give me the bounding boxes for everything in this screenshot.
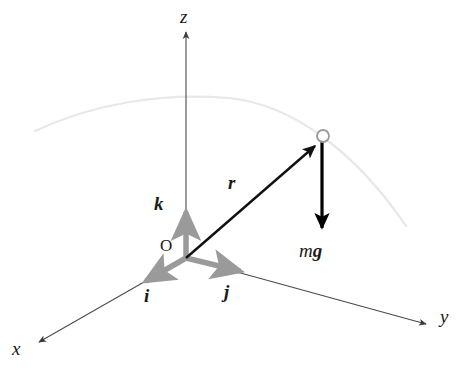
trajectory-path: [35, 97, 406, 226]
axis-label-y: y: [440, 306, 448, 328]
unit-vector-label-j: j: [224, 281, 229, 303]
force-label-mass-symbol: m: [299, 240, 313, 261]
unit-vector-j: [186, 258, 240, 271]
force-vector-label-mg: mg: [299, 240, 322, 262]
unit-vector-label-k: k: [154, 193, 164, 215]
axis-label-z: z: [180, 6, 187, 28]
unit-vector-label-i: i: [144, 285, 149, 307]
particle-marker: [317, 130, 329, 142]
unit-vector-i: [146, 258, 186, 281]
axis-label-x: x: [12, 338, 20, 360]
origin-label: O: [160, 236, 172, 256]
position-vector-label-r: r: [228, 172, 235, 194]
force-label-gravity-symbol: g: [313, 240, 323, 261]
physics-diagram-canvas: z x y O k i j r mg: [0, 0, 468, 380]
position-vector-r: [186, 146, 315, 258]
